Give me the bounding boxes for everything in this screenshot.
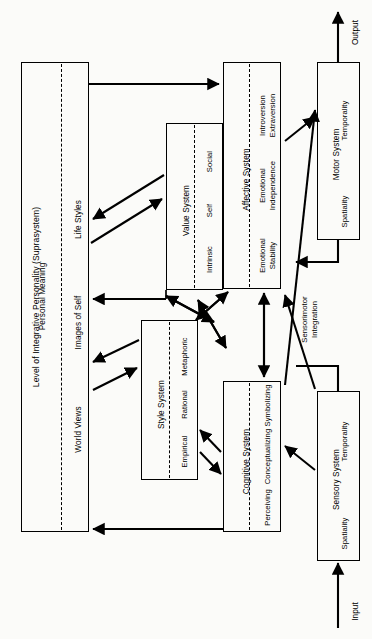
diagram-canvas: Level of Integrative Personality (Supras… xyxy=(0,0,372,639)
link-sensory-to-cognitive xyxy=(285,446,315,470)
link-style-to-suprasystem xyxy=(93,340,139,362)
connector-layer xyxy=(0,0,372,639)
link-sensory-sensorimotor-bridge xyxy=(296,366,338,391)
link-affective-to-motor xyxy=(285,117,315,141)
link-cognitive-to-style xyxy=(200,430,221,452)
link-style-to-cognitive xyxy=(200,452,221,474)
link-cross-value-cognitive xyxy=(166,296,214,322)
link-suprasystem-to-value xyxy=(91,199,162,243)
link-value-to-suprasystem xyxy=(93,175,164,219)
link-suprasystem-to-style xyxy=(93,368,137,390)
link-motor-sensorimotor-bridge xyxy=(296,240,338,262)
